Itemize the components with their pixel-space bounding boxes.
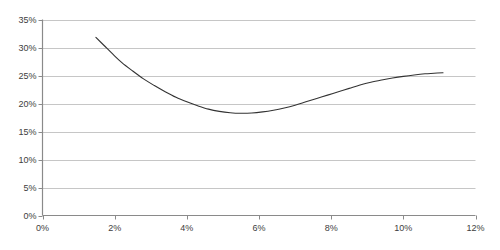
y-axis-tick-label: 0% <box>0 211 37 221</box>
y-axis-tick-label: 5% <box>0 183 37 193</box>
plot-area <box>0 0 500 250</box>
y-axis-tick-label: 20% <box>0 99 37 109</box>
x-axis-tick-label: 12% <box>466 223 484 233</box>
y-axis-tick-label: 35% <box>0 15 37 25</box>
y-axis-tick-label: 10% <box>0 155 37 165</box>
x-axis-tick-label: 4% <box>180 223 193 233</box>
x-axis-tick-label: 2% <box>108 223 121 233</box>
x-axis-tick-label: 0% <box>36 223 49 233</box>
y-axis-tick-label: 25% <box>0 71 37 81</box>
y-axis-tick-label: 15% <box>0 127 37 137</box>
x-axis-tick-label: 10% <box>394 223 412 233</box>
y-axis-tick-label: 30% <box>0 43 37 53</box>
gridlines <box>43 21 476 189</box>
x-axis-ticks <box>44 216 477 220</box>
x-axis-tick-label: 6% <box>252 223 265 233</box>
x-axis-tick-label: 8% <box>325 223 338 233</box>
line-chart: 0%5%10%15%20%25%30%35% 0%2%4%6%8%10%12% <box>0 0 500 250</box>
